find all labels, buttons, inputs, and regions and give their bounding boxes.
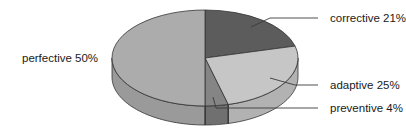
pie-chart: corrective 21% adaptive 25% preventive 4… (0, 0, 406, 132)
slice-label-preventive: preventive 4% (330, 102, 403, 114)
slice-label-corrective: corrective 21% (330, 12, 406, 24)
slice-label-adaptive: adaptive 25% (330, 79, 400, 91)
slice-label-perfective: perfective 50% (22, 52, 98, 64)
